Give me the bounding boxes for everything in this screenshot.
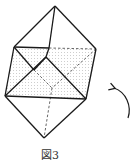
rotation-arrow-icon: [114, 88, 129, 118]
edge-TA: [14, 6, 55, 47]
edge-CE: [5, 96, 44, 138]
edge-DE: [44, 99, 86, 138]
edge-TM: [49, 6, 55, 48]
figure-caption: 図3: [0, 146, 100, 162]
shaded-section: [5, 47, 96, 99]
edge-TB: [55, 6, 96, 49]
polyhedron-figure: [0, 0, 136, 162]
